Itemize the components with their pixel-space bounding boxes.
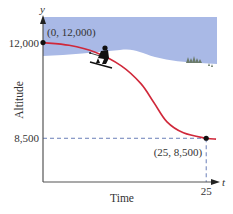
- y-axis-title: Altitude: [13, 81, 25, 119]
- x-tick-label: 25: [201, 185, 213, 197]
- x-axis-var: t: [222, 176, 226, 188]
- y-tick-label: 8,500: [14, 132, 39, 144]
- point-annotation: (0, 12,000): [47, 26, 96, 39]
- y-axis-var: y: [39, 3, 45, 15]
- y-tick-label: 12,000: [9, 37, 40, 49]
- data-point: [204, 136, 209, 141]
- data-point: [40, 40, 45, 45]
- x-axis-arrow-icon: [211, 179, 220, 185]
- x-axis-title: Time: [110, 192, 134, 204]
- x-tick-labels: 25: [201, 185, 213, 197]
- point-annotation: (25, 8,500): [154, 146, 203, 159]
- altitude-chart: y t 12,0008,500 25 Altitude Time (0, 12,…: [0, 0, 233, 214]
